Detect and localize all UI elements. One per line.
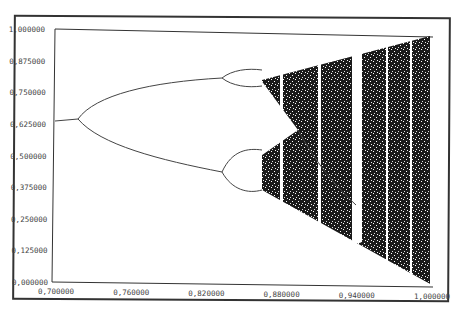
y-tick-label: 0,250000 — [11, 215, 48, 224]
y-tick-label: 0,625000 — [10, 120, 47, 129]
bifurcation-chart: 0,0000000,1250000,2500000,3750000,500000… — [0, 0, 463, 316]
x-tick-label: 0,700000 — [38, 287, 75, 296]
x-tick-label: 1,000000 — [414, 292, 451, 301]
y-tick-label: 0,375000 — [11, 183, 48, 192]
y-tick-label: 1,000000 — [9, 25, 46, 34]
y-tick-label: 0,875000 — [9, 57, 46, 66]
y-tick-label: 0,500000 — [10, 152, 47, 161]
y-tick-label: 0,125000 — [11, 246, 48, 255]
x-tick-label: 0,760000 — [113, 288, 150, 297]
x-tick-labels: 0,7000000,7600000,8200000,8800000,940000… — [38, 287, 451, 301]
y-tick-label: 0,750000 — [10, 88, 47, 97]
y-tick-label: 0,000000 — [12, 278, 49, 287]
bifurcation-data — [55, 36, 430, 284]
x-tick-label: 0,940000 — [339, 291, 376, 300]
x-tick-label: 0,880000 — [264, 290, 301, 299]
y-tick-labels: 0,0000000,1250000,2500000,3750000,500000… — [9, 25, 49, 287]
x-tick-label: 0,820000 — [188, 289, 225, 298]
